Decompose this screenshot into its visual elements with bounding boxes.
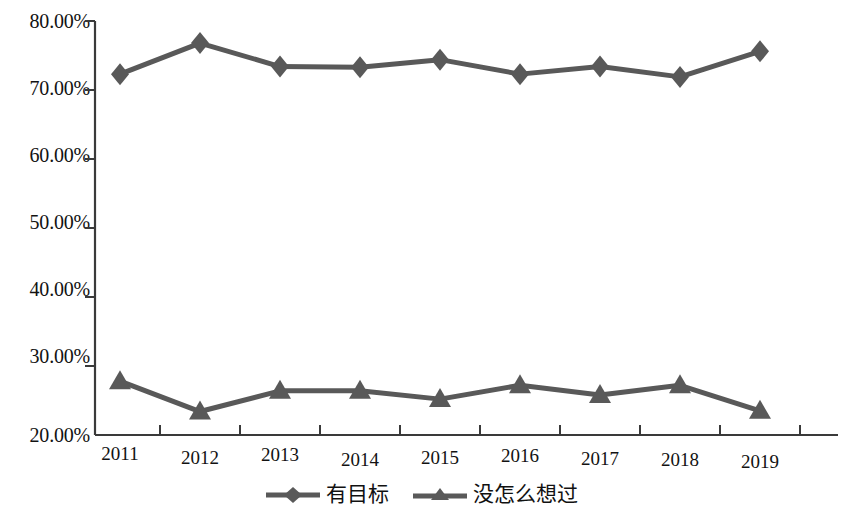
x-axis-ticks: [160, 425, 800, 435]
line-chart: 80.00% 70.00% 60.00% 50.00% 40.00% 30.00…: [0, 0, 841, 517]
x-tick-label: 2012: [160, 448, 240, 467]
legend-label: 没怎么想过: [473, 484, 578, 505]
diamond-marker-icon: [264, 485, 322, 505]
x-tick-label: 2019: [720, 452, 800, 471]
plot-area: [0, 0, 841, 517]
x-tick-label: 2011: [80, 444, 160, 463]
triangle-data-point: [109, 370, 131, 389]
series-triangle: [109, 370, 771, 419]
diamond-data-point: [751, 40, 769, 62]
diamond-data-point: [191, 32, 209, 54]
x-tick-label: 2017: [560, 449, 640, 468]
x-tick-label: 2014: [320, 450, 400, 469]
legend-label: 有目标: [326, 484, 389, 505]
data-series-layer: [109, 32, 771, 419]
diamond-data-point: [111, 63, 129, 85]
x-tick-label: 2013: [240, 445, 320, 464]
diamond-data-point: [671, 66, 689, 88]
triangle-marker-icon: [411, 485, 469, 505]
diamond-data-point: [351, 56, 369, 78]
series-diamond: [111, 32, 769, 88]
diamond-data-point: [591, 56, 609, 78]
legend-item-not-thought[interactable]: 没怎么想过: [411, 484, 578, 505]
x-tick-label: 2016: [480, 446, 560, 465]
x-tick-label: 2015: [400, 448, 480, 467]
legend-item-has-goal[interactable]: 有目标: [264, 484, 389, 505]
chart-legend: 有目标 没怎么想过: [0, 484, 841, 505]
diamond-data-point: [511, 63, 529, 85]
diamond-data-point: [271, 56, 289, 78]
y-axis-ticks: [85, 21, 95, 366]
diamond-data-point: [431, 49, 449, 71]
axis-lines: [95, 21, 838, 435]
x-tick-label: 2018: [640, 450, 720, 469]
